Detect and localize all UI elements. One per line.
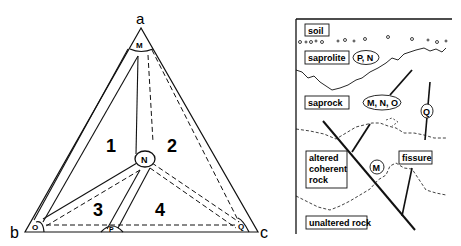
vertex-a-label: a — [136, 10, 145, 27]
node-n-label: N — [141, 155, 148, 165]
node-q-label: Q — [238, 222, 244, 231]
altered-label-3: rock — [309, 175, 329, 185]
fissure-label: fissure — [402, 153, 432, 163]
saprock-label: saprock — [308, 98, 344, 108]
region-3-label: 3 — [93, 200, 103, 220]
region-2-label: 2 — [167, 136, 177, 156]
soil-label: soil — [308, 26, 324, 36]
altered-m-tag: M — [373, 163, 381, 173]
region-4-label: 4 — [155, 200, 165, 220]
node-p-label: P — [109, 226, 114, 233]
region-1-label: 1 — [106, 136, 116, 156]
unaltered-label: unaltered rock — [309, 218, 372, 228]
node-m-label: M — [136, 41, 143, 50]
vertex-c-label: c — [260, 224, 268, 241]
saprock-tag: M, N, O — [367, 98, 398, 108]
fissure-q-tag: Q — [423, 107, 430, 117]
ternary-diagram: a b c M N O P Q 1 2 3 4 soil saprolite P… — [0, 0, 461, 246]
altered-label-1: altered — [309, 153, 339, 163]
saprolite-label: saprolite — [308, 53, 346, 63]
outer-triangle — [25, 28, 258, 232]
node-o-label: O — [32, 223, 38, 232]
soil-pebbles — [299, 36, 448, 44]
vertex-b-label: b — [10, 224, 19, 241]
saprolite-tag: P, N — [357, 53, 373, 63]
altered-label-2: coherent — [309, 164, 347, 174]
